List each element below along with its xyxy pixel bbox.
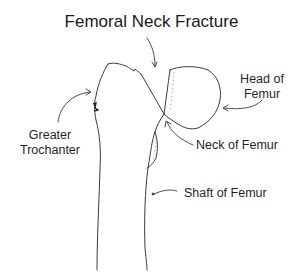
trochanter-arrow <box>58 92 90 122</box>
label-trochanter-line2: Trochanter <box>14 143 86 158</box>
bone-right-edge <box>145 114 164 270</box>
fracture-arrow <box>147 38 155 66</box>
label-neck-of-femur: Neck of Femur <box>196 138 296 153</box>
femur-fracture-diagram: Femoral Neck Fracture Head of Femur Grea… <box>0 0 303 278</box>
femur-head <box>164 67 221 129</box>
fracture-line <box>141 74 164 114</box>
trochanter-mark <box>93 103 98 111</box>
head-shading <box>170 72 174 112</box>
label-head-line1: Head of <box>235 72 289 87</box>
label-head-of-femur: Head of Femur <box>235 72 289 102</box>
bone-top-edge <box>108 63 141 74</box>
label-head-line2: Femur <box>235 87 289 102</box>
label-trochanter-line1: Greater <box>14 128 86 143</box>
diagram-title: Femoral Neck Fracture <box>0 12 303 32</box>
bone-left-edge <box>95 64 109 270</box>
shaft-arrow <box>154 190 177 194</box>
label-shaft-of-femur: Shaft of Femur <box>184 186 284 201</box>
label-greater-trochanter: Greater Trochanter <box>14 128 86 158</box>
